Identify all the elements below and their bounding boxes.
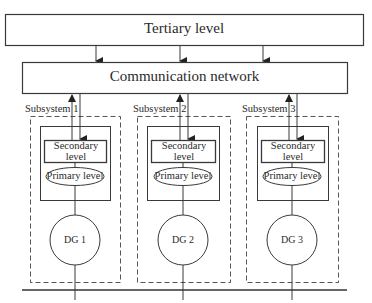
subsystem-1-label: Subsystem 1 [25, 103, 78, 114]
subsystem-2-label: Subsystem 2 [133, 103, 186, 114]
subsystem-3-controller-box [258, 127, 329, 201]
subsystem-3 [247, 94, 339, 300]
subsystem-2-primary-label: Primary level [154, 170, 212, 181]
subsystem-3-secondary-label: Secondary level [262, 140, 324, 162]
subsystem-3-primary-label: Primary level [263, 170, 321, 181]
subsystem-2 [138, 94, 231, 300]
subsystem-3-label: Subsystem 3 [242, 103, 295, 114]
subsystem-1-primary-label: Primary level [46, 170, 104, 181]
subsystem-1 [31, 94, 121, 300]
tertiary-level-label: Tertiary level [5, 20, 363, 37]
tertiary-to-network-arrows [96, 46, 263, 62]
subsystem-1-secondary-label: Secondary level [46, 140, 106, 162]
dg-2-label: DG 2 [163, 234, 203, 245]
subsystem-2-secondary-label: Secondary level [153, 140, 215, 162]
dg-1-label: DG 1 [55, 234, 95, 245]
dg-3-label: DG 3 [272, 234, 312, 245]
communication-network-label: Communication network [22, 68, 347, 85]
